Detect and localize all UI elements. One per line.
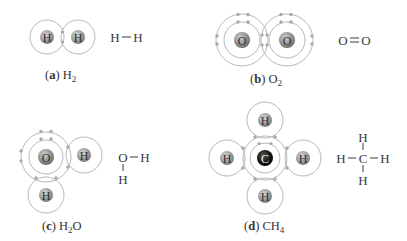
covalent-bond-diagram: H H H H (a) H2 bbox=[0, 0, 407, 241]
shared-electron bbox=[61, 30, 64, 33]
panel-h2: H H H H (a) H2 bbox=[30, 20, 143, 84]
caption-c: (c) H2O bbox=[42, 219, 82, 235]
formula-atom: C bbox=[359, 151, 368, 166]
formula-atom: O bbox=[338, 33, 347, 48]
caption-d: (d) CH4 bbox=[244, 219, 285, 235]
atom-label: C bbox=[261, 152, 269, 166]
panel-ch4: C H H H H H H C H H (d) CH4 bbox=[209, 102, 390, 235]
atom-label: H bbox=[299, 152, 308, 166]
formula-atom: H bbox=[380, 151, 389, 166]
h2o-electron-model: O H H bbox=[19, 130, 102, 213]
formula-atom: O bbox=[361, 33, 370, 48]
atom-label: H bbox=[43, 31, 52, 45]
formula-atom: H bbox=[133, 30, 142, 45]
formula-atom: H bbox=[110, 30, 119, 45]
shared-electron bbox=[61, 40, 64, 43]
atom-label: H bbox=[223, 152, 232, 166]
atom-label: H bbox=[80, 149, 89, 163]
formula-atom: O bbox=[118, 150, 127, 165]
o2-structural-formula: O O bbox=[338, 33, 370, 48]
atom-label: H bbox=[261, 190, 270, 204]
atom-label: H bbox=[42, 189, 51, 203]
atom-label: H bbox=[261, 114, 270, 128]
atom-label: O bbox=[238, 34, 247, 48]
atom-label: H bbox=[74, 31, 83, 45]
atom-label: O bbox=[283, 34, 292, 48]
h2o-structural-formula: O H H bbox=[118, 150, 149, 187]
h2-structural-formula: H H bbox=[110, 30, 142, 45]
panel-h2o: O H H O H H (c) H2O bbox=[19, 130, 149, 235]
caption-a: (a) H2 bbox=[45, 68, 76, 84]
atom-label: O bbox=[42, 151, 51, 165]
shared-electrons bbox=[260, 33, 268, 46]
caption-b: (b) O2 bbox=[250, 72, 282, 88]
o2-electron-model: O O bbox=[215, 13, 313, 66]
ch4-structural-formula: H H C H H bbox=[336, 130, 389, 188]
panel-o2: O O O O (b) O2 bbox=[215, 13, 370, 88]
ch4-electron-model: C H H H H bbox=[209, 102, 321, 214]
formula-atom: H bbox=[118, 172, 127, 187]
formula-atom: H bbox=[336, 151, 345, 166]
formula-atom: H bbox=[358, 130, 367, 145]
formula-atom: H bbox=[358, 173, 367, 188]
h2-electron-model: H H bbox=[30, 20, 95, 54]
formula-atom: H bbox=[140, 150, 149, 165]
